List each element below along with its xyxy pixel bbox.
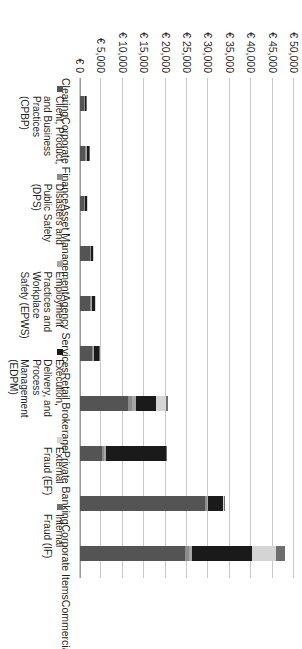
bar-segment-dps[interactable] <box>90 296 91 311</box>
y-axis-tick-label: € 15,000 <box>138 32 150 73</box>
legend-item[interactable]: Internal Fraud (IF) <box>42 504 65 566</box>
legend-swatch-dps <box>57 174 63 180</box>
bar-slot <box>80 128 294 178</box>
bar-segment-cpbp[interactable] <box>80 296 90 311</box>
chart-legend: Client, Product, and Business Practices … <box>8 86 66 566</box>
legend-item[interactable]: Disasters and Public Safety (DPS) <box>31 174 66 262</box>
y-axis-tick-label: € 25,000 <box>181 32 193 73</box>
bar-segment-dps[interactable] <box>92 346 93 361</box>
stacked-bar[interactable] <box>80 496 225 511</box>
bar-segment-epws[interactable] <box>104 446 105 461</box>
bar-segment-epws[interactable] <box>93 346 94 361</box>
bar-segment-ef[interactable] <box>95 296 96 311</box>
bar-segment-if[interactable] <box>224 496 225 511</box>
legend-label: Employment Practices and Workplace Safet… <box>19 271 65 349</box>
y-axis-tick-label: € 35,000 <box>224 32 236 73</box>
bar-segment-if[interactable] <box>166 446 167 461</box>
y-axis-tick-label: € 50,000 <box>288 32 300 73</box>
bar-segment-cpbp[interactable] <box>80 346 92 361</box>
bar-segment-if[interactable] <box>276 546 285 561</box>
legend-item[interactable]: Client, Product, and Business Practices … <box>19 86 65 174</box>
legend-item[interactable]: Execution, Delivery, and Process Managem… <box>8 349 66 437</box>
stacked-bar[interactable] <box>80 246 94 261</box>
bar-segment-cpbp[interactable] <box>80 196 84 211</box>
legend-label: Internal Fraud (IF) <box>42 514 65 566</box>
legend-label: Execution, Delivery, and Process Managem… <box>8 359 66 437</box>
stacked-bar[interactable] <box>80 396 168 411</box>
bar-series-group <box>80 78 294 578</box>
legend-label: Disasters and Public Safety (DPS) <box>31 184 66 262</box>
bar-segment-cpbp[interactable] <box>80 246 90 261</box>
rotated-chart-container: € 0€ 5,000€ 10,000€ 15,000€ 20,000€ 25,0… <box>0 0 302 649</box>
bar-segment-epws[interactable] <box>91 296 92 311</box>
y-axis-tick-label: € 40,000 <box>245 32 257 73</box>
bar-segment-epws[interactable] <box>85 96 86 111</box>
bar-segment-cpbp[interactable] <box>80 446 102 461</box>
bar-segment-edpm[interactable] <box>94 346 99 361</box>
bar-segment-edpm[interactable] <box>87 146 88 161</box>
stacked-bar[interactable] <box>80 146 90 161</box>
bar-segment-dps[interactable] <box>102 446 104 461</box>
bar-segment-ef[interactable] <box>252 546 276 561</box>
stacked-bar[interactable] <box>80 546 285 561</box>
bar-segment-cpbp[interactable] <box>80 146 85 161</box>
legend-swatch-epws <box>57 261 63 267</box>
legend-label: Client, Product, and Business Practices … <box>19 96 65 174</box>
bar-segment-ef[interactable] <box>156 396 166 411</box>
category-label: Commercial Banking <box>2 600 72 649</box>
bar-segment-cpbp[interactable] <box>80 396 128 411</box>
bar-segment-ef[interactable] <box>99 346 100 361</box>
bar-segment-dps[interactable] <box>85 146 86 161</box>
chart-stage: € 0€ 5,000€ 10,000€ 15,000€ 20,000€ 25,0… <box>0 0 302 649</box>
bar-segment-edpm[interactable] <box>91 246 93 261</box>
legend-swatch-if <box>57 504 63 510</box>
legend-item[interactable]: External Fraud (EF) <box>42 437 65 504</box>
bar-segment-cpbp[interactable] <box>80 546 185 561</box>
bar-segment-epws[interactable] <box>86 146 87 161</box>
bar-slot <box>80 228 294 278</box>
y-axis-tick-label: € 0 <box>74 58 86 73</box>
bar-segment-if[interactable] <box>99 346 100 361</box>
stacked-bar[interactable] <box>80 296 97 311</box>
bar-slot <box>80 428 294 478</box>
bar-slot <box>80 528 294 578</box>
stacked-bar[interactable] <box>80 446 167 461</box>
bar-slot <box>80 478 294 528</box>
bar-segment-edpm[interactable] <box>92 296 96 311</box>
bar-slot <box>80 378 294 428</box>
bar-segment-edpm[interactable] <box>136 396 156 411</box>
bar-segment-ef[interactable] <box>89 146 90 161</box>
legend-item[interactable]: Employment Practices and Workplace Safet… <box>19 261 65 349</box>
bar-segment-dps[interactable] <box>185 546 189 561</box>
legend-swatch-cpbp <box>57 86 63 92</box>
legend-swatch-ef <box>57 437 63 443</box>
bar-segment-ef[interactable] <box>223 496 224 511</box>
bar-segment-cpbp[interactable] <box>80 496 205 511</box>
legend-swatch-edpm <box>57 349 63 355</box>
chart-figure: € 0€ 5,000€ 10,000€ 15,000€ 20,000€ 25,0… <box>0 0 302 649</box>
bar-segment-dps[interactable] <box>205 496 206 511</box>
y-axis-tick-label: € 30,000 <box>202 32 214 73</box>
bar-segment-epws[interactable] <box>189 546 192 561</box>
y-axis-tick-label: € 10,000 <box>117 32 129 73</box>
bar-segment-dps[interactable] <box>90 246 91 261</box>
stacked-bar[interactable] <box>80 96 87 111</box>
bar-segment-edpm[interactable] <box>106 446 166 461</box>
bar-segment-epws[interactable] <box>207 496 208 511</box>
bar-segment-cpbp[interactable] <box>80 96 84 111</box>
bar-segment-if[interactable] <box>166 396 168 411</box>
bar-slot <box>80 178 294 228</box>
bar-segment-edpm[interactable] <box>192 546 252 561</box>
stacked-bar[interactable] <box>80 346 100 361</box>
bar-segment-edpm[interactable] <box>85 196 87 211</box>
bar-slot <box>80 328 294 378</box>
y-axis-tick-label: € 5,000 <box>95 38 107 73</box>
category-label-text: Commercial Banking <box>2 600 72 649</box>
bar-segment-ef[interactable] <box>166 446 167 461</box>
bar-segment-edpm[interactable] <box>86 96 87 111</box>
bar-segment-epws[interactable] <box>132 396 135 411</box>
bar-segment-edpm[interactable] <box>208 496 223 511</box>
bar-segment-epws[interactable] <box>91 246 92 261</box>
bar-segment-dps[interactable] <box>128 396 132 411</box>
stacked-bar[interactable] <box>80 196 88 211</box>
